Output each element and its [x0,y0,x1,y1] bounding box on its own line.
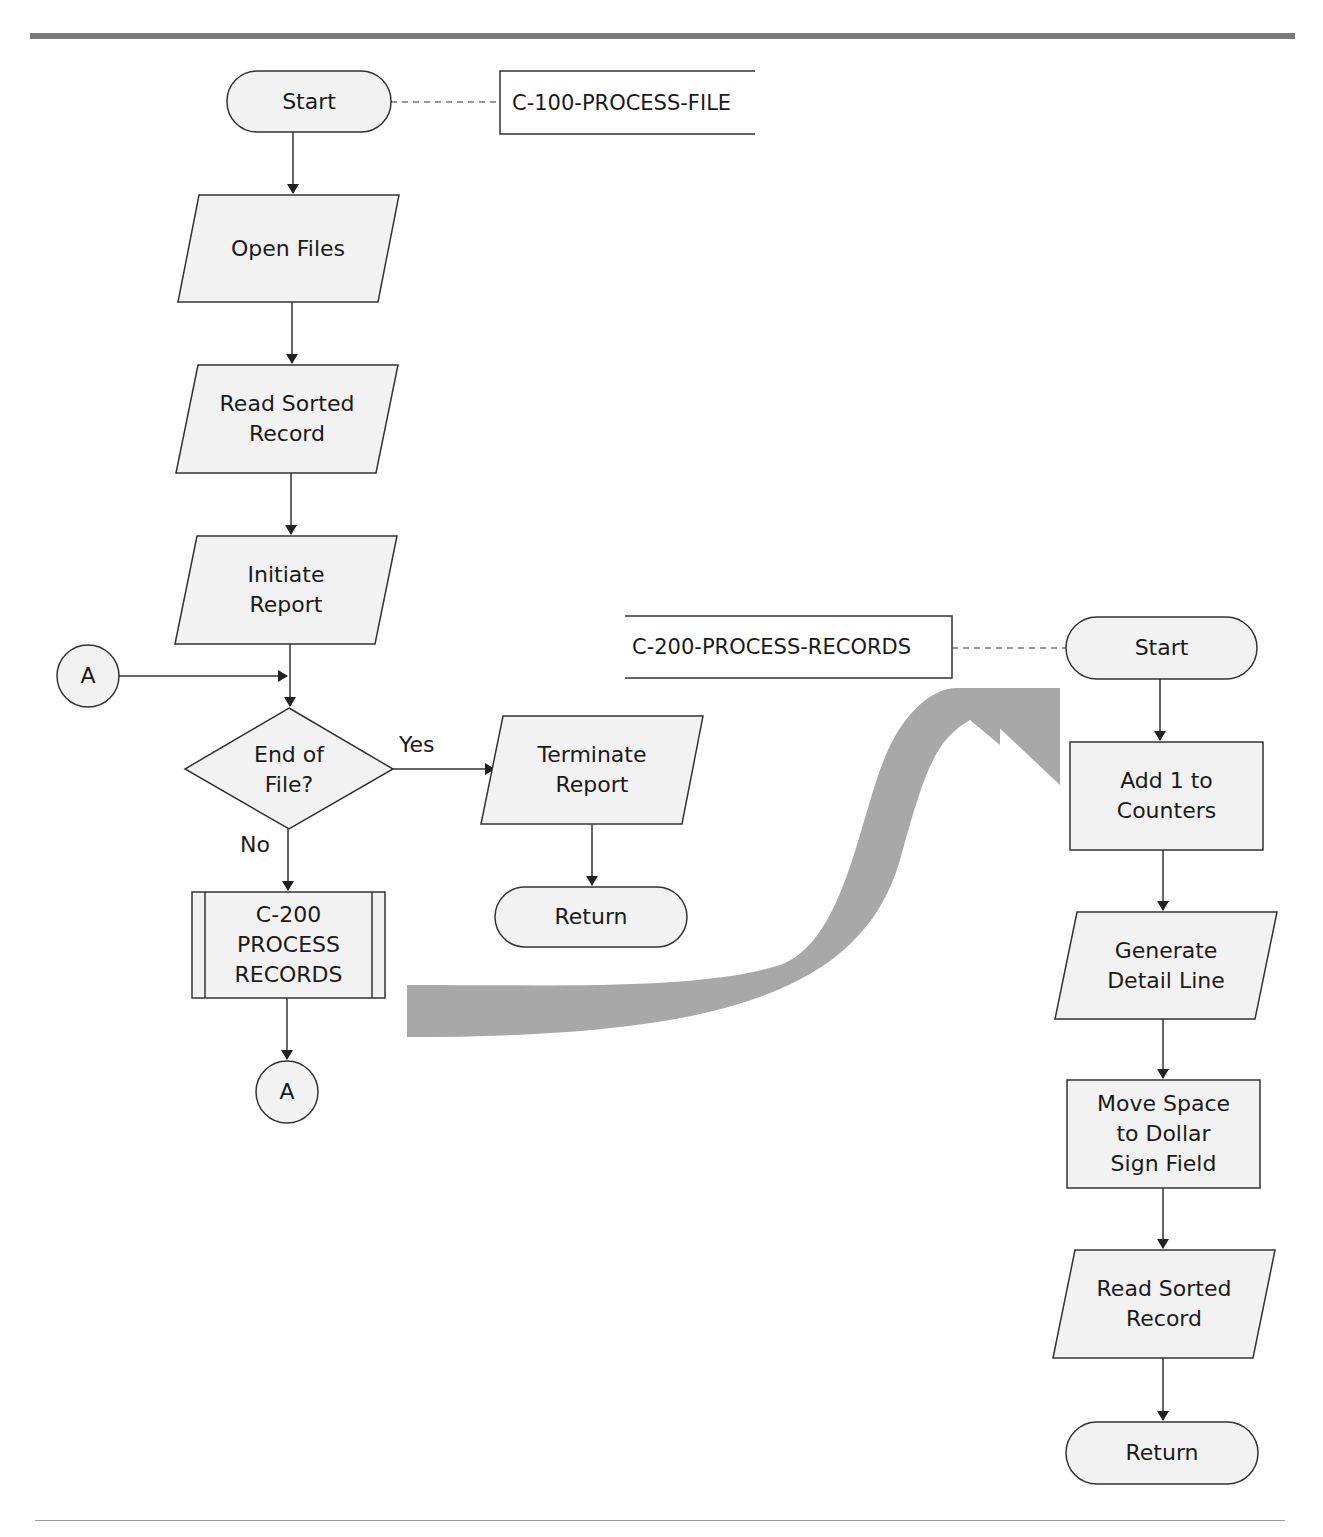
add-counters-process [1070,742,1263,850]
return-terminal-right [1066,1422,1258,1484]
initiate-report-io [175,536,397,644]
flowchart-canvas [0,0,1323,1537]
read-sorted-record-io-right [1053,1250,1275,1358]
open-files-io [178,195,399,302]
connector-a-out [256,1061,318,1123]
generate-detail-line-io [1055,912,1277,1019]
start-terminal-right [1066,617,1257,679]
connector-a-in [57,645,119,707]
start-terminal-left [227,71,391,132]
yes-branch-label: Yes [399,732,435,757]
move-space-process [1067,1080,1260,1188]
big-transfer-arrow [407,688,1000,1037]
module-label-c100: C-100-PROCESS-FILE [512,71,731,134]
terminate-report-io [481,716,703,824]
end-of-file-decision [185,708,393,829]
c200-subprocess [192,892,385,998]
bottom-rule [35,1520,1285,1521]
module-label-c200: C-200-PROCESS-RECORDS [632,616,911,678]
no-branch-label: No [240,832,270,857]
return-terminal-left [495,887,687,947]
read-sorted-record-io [176,365,398,473]
